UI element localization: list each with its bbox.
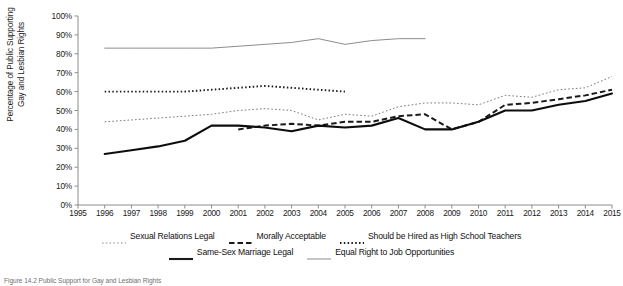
legend-item[interactable]: Same-Sex Marriage Legal [169, 247, 293, 257]
chart-figure: Percentage of Public Supporting Gay and … [0, 0, 623, 286]
legend-item-label: Morally Acceptable [257, 231, 326, 241]
legend-swatch-dashed-bold [229, 239, 253, 247]
legend-swatch-solid-bold [169, 255, 193, 263]
figure-caption: Figure 14.2 Public Support for Gay and L… [4, 277, 161, 284]
legend-line-icon [169, 249, 193, 256]
legend-row-2: Same-Sex Marriage LegalEqual Right to Jo… [0, 244, 623, 260]
legend-line-icon [340, 233, 364, 240]
legend-line-icon [229, 233, 253, 240]
chart-legend: Sexual Relations LegalMorally Acceptable… [0, 228, 623, 260]
series-line [105, 39, 425, 48]
legend-item[interactable]: Morally Acceptable [229, 231, 326, 241]
legend-item-label: Should be Hired as High School Teachers [368, 231, 521, 241]
series-line [105, 86, 345, 92]
legend-item[interactable]: Should be Hired as High School Teachers [340, 231, 521, 241]
series-line [238, 90, 612, 130]
legend-item[interactable]: Equal Right to Job Opportunities [307, 247, 454, 257]
series-line [105, 76, 612, 121]
legend-item[interactable]: Sexual Relations Legal [102, 231, 215, 241]
legend-item-label: Equal Right to Job Opportunities [335, 247, 454, 257]
series-lines [105, 39, 612, 154]
legend-row-1: Sexual Relations LegalMorally Acceptable… [0, 228, 623, 244]
legend-line-icon [307, 249, 331, 256]
legend-line-icon [102, 233, 126, 240]
axes-lines [75, 16, 613, 209]
legend-item-label: Same-Sex Marriage Legal [197, 247, 293, 257]
legend-swatch-solid-thin [307, 255, 331, 263]
legend-item-label: Sexual Relations Legal [130, 231, 215, 241]
legend-swatch-dotted-bold [340, 239, 364, 247]
legend-swatch-dotted-fine [102, 239, 126, 247]
